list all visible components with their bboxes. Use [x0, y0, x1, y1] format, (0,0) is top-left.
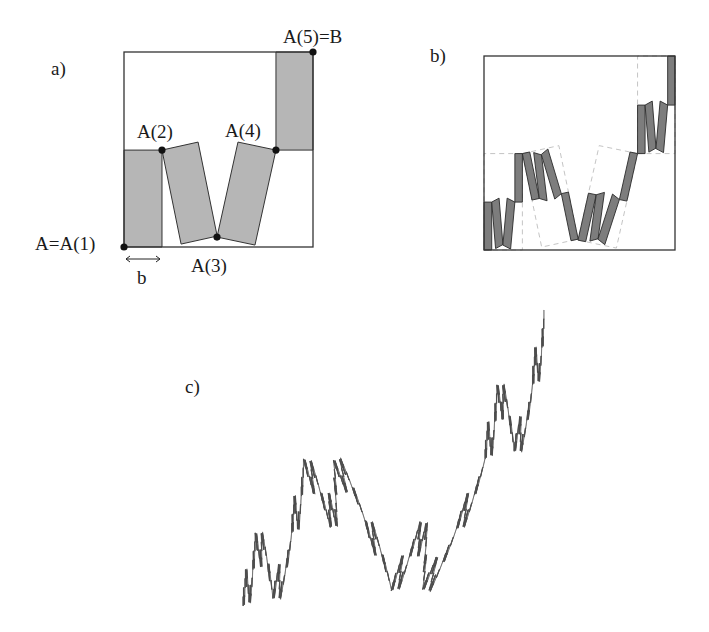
fractal-piece [316, 475, 318, 484]
fractal-piece [362, 511, 365, 520]
point-dot-icon [309, 48, 316, 55]
fractal-piece [288, 550, 289, 559]
fractal-piece [416, 530, 418, 540]
panel-a: a) A=A(1) A(2) A(3) A(4) A(5)=B b [35, 26, 342, 288]
fractal-piece [379, 545, 381, 554]
fractal-piece [404, 565, 406, 574]
fractal-piece [561, 192, 578, 241]
fractal-piece [484, 202, 492, 250]
fractal-piece [407, 557, 409, 566]
fractal-piece [124, 150, 162, 247]
fractal-piece [272, 589, 273, 598]
fractal-piece [436, 569, 439, 578]
fractal-piece [300, 513, 301, 522]
point-dot-icon [120, 243, 127, 250]
panel-b: b) [430, 45, 675, 250]
fractal-piece [508, 407, 509, 416]
fractal-piece [326, 510, 328, 519]
fractal-piece [285, 568, 286, 577]
point-label-a3: A(3) [191, 255, 227, 277]
fractal-piece [450, 537, 453, 546]
fractal-piece [492, 198, 503, 248]
fractal-piece [489, 429, 490, 438]
fractal-piece [540, 365, 541, 374]
fractal-piece [217, 142, 276, 245]
fractal-piece [251, 587, 252, 596]
fractal-piece [503, 198, 515, 249]
point-dot-icon [158, 146, 165, 153]
fractal-piece [387, 571, 389, 581]
panel-a-label: a) [51, 58, 66, 80]
fractal-piece [500, 402, 501, 412]
fractal-curve [243, 310, 544, 606]
fractal-piece [517, 434, 518, 443]
fractal-piece [247, 576, 248, 585]
panel-c-label: c) [185, 376, 200, 398]
fractal-piece [493, 439, 494, 448]
fractal-piece [259, 549, 260, 558]
level-2-rectangles [484, 56, 675, 250]
fractal-piece [512, 433, 513, 443]
fractal-piece [258, 541, 259, 550]
fractal-piece [513, 441, 514, 450]
fractal-piece [453, 529, 456, 538]
fractal-piece [389, 580, 391, 589]
fractal-piece [276, 52, 313, 150]
fractal-piece [439, 562, 442, 570]
point-label-a4: A(4) [225, 120, 261, 142]
point-label-a2: A(2) [137, 121, 173, 143]
fractal-piece [377, 537, 379, 546]
fractal-piece [483, 459, 485, 468]
point-dot-icon [213, 233, 220, 240]
fractal-piece [318, 484, 320, 493]
panel-c: c) [185, 310, 544, 606]
fractal-piece [638, 105, 646, 154]
fractal-piece [472, 495, 474, 504]
generator-rectangles [124, 52, 313, 247]
point-dot-icon [272, 146, 279, 153]
point-label-a5: A(5)=B [283, 26, 342, 48]
fractal-piece [270, 571, 271, 580]
fractal-piece [511, 424, 512, 433]
fractal-piece [296, 503, 297, 512]
fractal-piece [275, 581, 276, 590]
panel-b-label: b) [430, 45, 446, 67]
fractal-piece [656, 101, 668, 153]
fractal-piece [532, 385, 533, 394]
fractal-piece [346, 472, 349, 481]
point-label-a1: A=A(1) [35, 233, 95, 255]
fractal-piece [668, 56, 675, 105]
fractal-piece [529, 403, 530, 412]
fractal-piece [515, 154, 523, 203]
fractal-figure: a) A=A(1) A(2) A(3) A(4) A(5)=B b b) c) [0, 0, 709, 632]
fractal-piece [359, 503, 362, 512]
fractal-piece [526, 420, 527, 429]
fractal-piece [619, 152, 637, 201]
fractal-piece [291, 533, 292, 542]
fractal-piece [266, 555, 267, 564]
width-label: b [137, 267, 147, 288]
fractal-piece [499, 393, 500, 402]
fractal-piece [481, 467, 483, 477]
fractal-piece [469, 503, 472, 512]
fractal-piece [162, 142, 217, 244]
fractal-piece [645, 101, 656, 152]
width-arrow-icon [126, 256, 160, 262]
fractal-piece [349, 479, 352, 487]
